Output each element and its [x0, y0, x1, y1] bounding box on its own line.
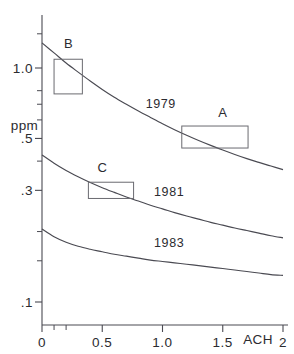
x-tick-label: 0: [38, 335, 46, 350]
x-axis-ticks: [42, 325, 283, 332]
x-axis-unit-label: ACH: [243, 332, 272, 347]
y-tick-label: .3: [21, 183, 33, 198]
y-axis-ticks: [35, 34, 42, 302]
chart-figure: 1.0.5.3.1 00.51.01.52 ppm ACH 1979198119…: [0, 0, 294, 354]
annotation-box-label-A: A: [218, 105, 227, 120]
concentration-vs-air-change-chart: 1.0.5.3.1 00.51.01.52 ppm ACH 1979198119…: [0, 0, 294, 354]
x-tick-label: 1.0: [152, 335, 172, 350]
y-tick-label: .5: [21, 131, 33, 146]
x-tick-label: 1.5: [213, 335, 233, 350]
y-axis-tick-labels: 1.0.5.3.1: [13, 61, 33, 310]
series-label-1983: 1983: [154, 236, 184, 250]
annotation-box-label-C: C: [97, 160, 107, 175]
series-label-1981: 1981: [154, 185, 184, 199]
series-label-1979: 1979: [146, 97, 176, 111]
y-tick-label: .1: [21, 295, 33, 310]
y-tick-label: 1.0: [13, 61, 33, 76]
annotation-boxes: [54, 59, 248, 198]
x-tick-label: 0.5: [92, 335, 112, 350]
annotation-box-label-B: B: [64, 36, 73, 51]
y-axis-unit-label: ppm: [11, 118, 38, 133]
series-labels: 197919811983: [146, 97, 185, 250]
x-tick-label: 2: [279, 335, 287, 350]
axes: [42, 15, 288, 325]
